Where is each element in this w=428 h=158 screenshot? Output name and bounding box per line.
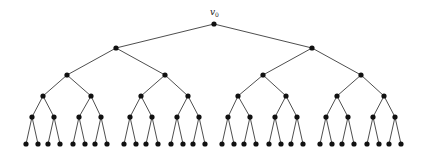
tree-edge xyxy=(146,117,152,144)
leaf-node xyxy=(202,141,207,146)
tree-node xyxy=(98,114,103,119)
tree-edge xyxy=(116,48,165,75)
leaf-node xyxy=(121,141,126,146)
tree-node xyxy=(138,93,143,98)
tree-node xyxy=(40,93,45,98)
leaf-node xyxy=(168,141,173,146)
tree-edge xyxy=(141,96,152,117)
tree-node xyxy=(196,114,201,119)
tree-edge xyxy=(244,117,250,144)
leaf-node xyxy=(104,141,109,146)
leaf-node xyxy=(45,141,50,146)
tree-node xyxy=(76,114,81,119)
tree-edge xyxy=(73,117,79,144)
tree-edge xyxy=(326,117,332,144)
tree-edge xyxy=(389,117,395,144)
tree-edge xyxy=(43,75,67,96)
tree-edge xyxy=(342,117,348,144)
tree-edge xyxy=(320,117,326,144)
tree-edge xyxy=(199,117,205,144)
leaf-node xyxy=(92,141,97,146)
tree-nodes xyxy=(23,21,403,146)
tree-node xyxy=(64,72,69,77)
leaf-node xyxy=(398,141,403,146)
leaf-node xyxy=(241,141,246,146)
tree-edge xyxy=(188,96,199,117)
tree-node xyxy=(370,114,375,119)
tree-edge xyxy=(238,96,250,117)
tree-edge xyxy=(297,117,303,144)
tree-node xyxy=(247,114,252,119)
tree-edge xyxy=(130,117,136,144)
leaf-node xyxy=(376,141,381,146)
tree-edge xyxy=(177,117,183,144)
tree-edge xyxy=(269,117,275,144)
tree-node xyxy=(162,72,167,77)
tree-node xyxy=(260,72,265,77)
tree-edge xyxy=(337,75,361,96)
tree-node xyxy=(235,93,240,98)
tree-edge xyxy=(177,96,188,117)
tree-node xyxy=(225,114,230,119)
tree-edge xyxy=(228,96,238,117)
leaf-node xyxy=(143,141,148,146)
tree-edge xyxy=(32,96,43,117)
tree-edge xyxy=(165,75,188,96)
tree-edge xyxy=(312,48,361,75)
tree-node xyxy=(358,72,363,77)
tree-node xyxy=(149,114,154,119)
root-node xyxy=(211,21,216,26)
tree-node xyxy=(345,114,350,119)
tree-edge xyxy=(95,117,101,144)
tree-edge xyxy=(141,75,165,96)
leaf-node xyxy=(386,141,391,146)
tree-edge xyxy=(193,117,199,144)
tree-edge xyxy=(32,117,38,144)
leaf-node xyxy=(155,141,160,146)
tree-edge xyxy=(228,117,234,144)
tree-node xyxy=(127,114,132,119)
leaf-node xyxy=(23,141,28,146)
leaf-node xyxy=(339,141,344,146)
tree-node xyxy=(88,93,93,98)
leaf-node xyxy=(288,141,293,146)
leaf-node xyxy=(231,141,236,146)
tree-edge xyxy=(337,96,348,117)
leaf-node xyxy=(133,141,138,146)
tree-edge xyxy=(395,117,401,144)
leaf-node xyxy=(278,141,283,146)
tree-edge xyxy=(222,117,228,144)
tree-edge xyxy=(275,96,286,117)
tree-edge xyxy=(116,24,214,48)
tree-node xyxy=(323,114,328,119)
tree-edge xyxy=(361,75,384,96)
tree-edge xyxy=(250,117,256,144)
tree-edge xyxy=(348,117,354,144)
tree-edge xyxy=(101,117,107,144)
leaf-node xyxy=(57,141,62,146)
tree-edge xyxy=(238,75,263,96)
leaf-node xyxy=(190,141,195,146)
tree-edge xyxy=(263,48,312,75)
tree-edge xyxy=(326,96,337,117)
leaf-node xyxy=(180,141,185,146)
leaf-node xyxy=(351,141,356,146)
root-label: v0 xyxy=(210,7,219,18)
tree-edge xyxy=(130,96,141,117)
tree-edge xyxy=(48,117,54,144)
tree-edge xyxy=(91,96,101,117)
tree-edge xyxy=(124,117,130,144)
tree-edge xyxy=(26,117,32,144)
tree-node xyxy=(294,114,299,119)
tree-edge xyxy=(67,48,116,75)
tree-node xyxy=(283,93,288,98)
leaf-node xyxy=(82,141,87,146)
tree-node xyxy=(381,93,386,98)
leaf-node xyxy=(300,141,305,146)
tree-edge xyxy=(79,96,91,117)
tree-edge xyxy=(214,24,312,48)
tree-node xyxy=(185,93,190,98)
tree-edge xyxy=(263,75,286,96)
tree-edge xyxy=(384,96,395,117)
tree-edge xyxy=(367,117,373,144)
